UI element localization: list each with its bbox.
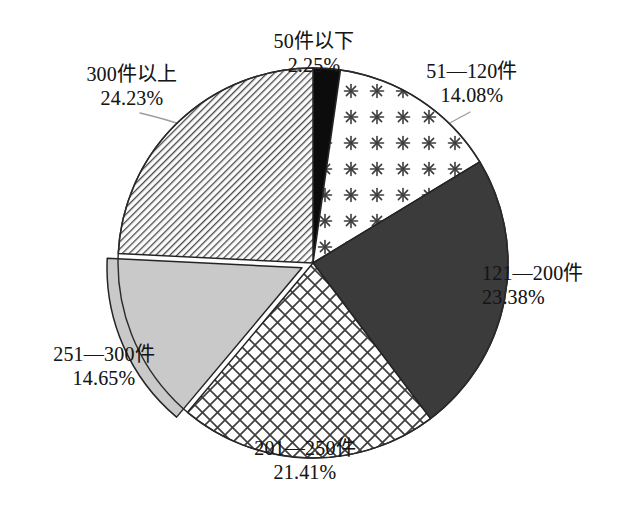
- slice-value-text: 14.08%: [396, 84, 548, 108]
- slice-value-text: 23.38%: [482, 286, 640, 310]
- slice-label-251-300: 251—300件 14.65%: [18, 343, 190, 390]
- slice-label-text: 121—200件: [482, 262, 640, 286]
- slice-value-text: 14.65%: [18, 367, 190, 391]
- slice-label-text: 201—250件: [216, 437, 394, 461]
- slice-label-text: 51—120件: [396, 60, 548, 84]
- slice-value-text: 2.25%: [236, 54, 392, 78]
- slice-value-text: 21.41%: [216, 461, 394, 485]
- slice-label-text: 50件以下: [236, 30, 392, 54]
- slice-label-text: 300件以上: [48, 63, 216, 87]
- slice-label-text: 251—300件: [18, 343, 190, 367]
- slice-label-50-or-less: 50件以下 2.25%: [236, 30, 392, 77]
- slice-label-121-200: 121—200件 23.38%: [482, 262, 640, 309]
- slice-label-201-250: 201—250件 21.41%: [216, 437, 394, 484]
- pie-chart: 50件以下 2.25% 51—120件 14.08% 121—200件 23.3…: [0, 0, 644, 517]
- slice-label-300-or-more: 300件以上 24.23%: [48, 63, 216, 110]
- pie-slices: [107, 68, 508, 458]
- slice-value-text: 24.23%: [48, 87, 216, 111]
- slice-label-51-120: 51—120件 14.08%: [396, 60, 548, 107]
